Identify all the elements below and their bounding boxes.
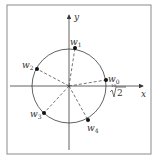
label-w2: w2 <box>22 60 34 71</box>
label-w4: w4 <box>87 123 99 134</box>
radius-w3 <box>44 86 69 113</box>
label-w3: w3 <box>30 109 42 120</box>
point-w4 <box>86 118 90 122</box>
radius-w1 <box>69 48 75 86</box>
label-w1: w1 <box>70 37 82 48</box>
radius-w4 <box>69 86 88 120</box>
radius-label: 10 2 <box>110 83 126 98</box>
radius-w0 <box>69 80 106 86</box>
x-axis-label: x <box>141 89 146 99</box>
figure-frame <box>7 5 151 154</box>
y-axis-label: y <box>73 12 80 22</box>
roots-of-unity-diagram: y x w0 w1 w2 w3 w4 10 2 <box>0 0 155 160</box>
svg-text:2: 2 <box>117 88 123 98</box>
point-w2 <box>35 67 39 71</box>
point-w3 <box>42 111 46 115</box>
radius-w2 <box>37 69 69 86</box>
